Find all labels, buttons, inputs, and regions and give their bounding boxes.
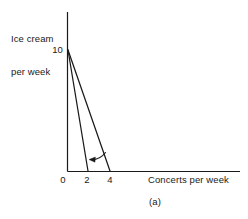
y-axis-label: Ice cream per week	[11, 11, 54, 99]
figure-container: Ice cream per week 10 0 2 4 Concerts per…	[0, 0, 248, 219]
budget-line-new	[68, 50, 88, 171]
x-tick-label-2: 2	[82, 174, 92, 185]
y-axis-label-line-1: Ice cream	[11, 33, 54, 44]
x-tick-label-4: 4	[105, 174, 115, 185]
y-axis-label-line-2: per week	[11, 66, 54, 77]
y-tick-label-10: 10	[46, 44, 63, 55]
budget-line-original	[68, 50, 110, 171]
x-tick-label-0: 0	[58, 174, 68, 185]
x-axis-label: Concerts per week	[148, 174, 229, 185]
leftward-shift-arrow	[89, 153, 106, 163]
figure-caption: (a)	[143, 196, 167, 207]
